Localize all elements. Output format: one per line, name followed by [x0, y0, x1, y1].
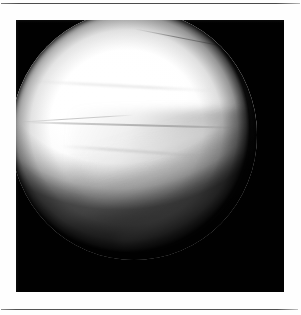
- cartilage-crease-mid-left: [21, 114, 134, 122]
- figure-image-panel: [16, 20, 284, 292]
- page-rule-bottom: [1, 309, 298, 310]
- scope-rim-blend: [16, 20, 257, 260]
- bright-cartilage-dome: [16, 20, 257, 200]
- inferior-shadow-band: [16, 160, 257, 260]
- scope-vignette: [16, 20, 257, 260]
- fibre-striation-band-b: [46, 128, 256, 236]
- fibre-striation-band-c: [112, 152, 257, 258]
- document-page: [0, 0, 301, 315]
- fibre-striation-band-a: [83, 92, 257, 188]
- endoscopic-scope-field: [16, 20, 257, 260]
- cartilage-crease-midline: [26, 121, 233, 128]
- grey-soft-tissue-wedge: [70, 110, 257, 260]
- cartilage-crease-arc-upper: [31, 80, 213, 92]
- scope-vignette-lower: [16, 20, 257, 260]
- cartilage-crease-upper-right: [135, 28, 232, 48]
- cartilage-crease-lower-centre: [60, 145, 202, 157]
- page-rule-top: [1, 3, 300, 4]
